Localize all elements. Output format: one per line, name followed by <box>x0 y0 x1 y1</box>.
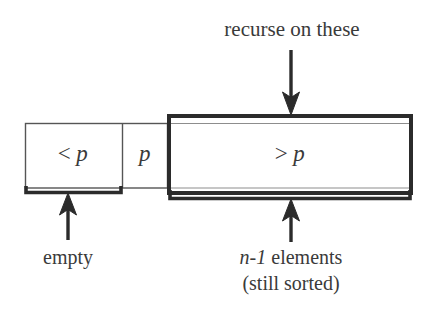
n-minus-one-math: n-1 <box>240 246 267 268</box>
empty-arrow-icon <box>60 193 77 240</box>
recurse-label: recurse on these <box>224 18 359 40</box>
cell-label-pivot: p <box>139 142 151 166</box>
remaining-caption-line2: (still sorted) <box>242 273 339 294</box>
pivot-variable-center: p <box>139 141 151 166</box>
quicksort-partition-diagram: recurse on these <p p >p empty n-1 eleme… <box>0 0 428 323</box>
pivot-variable-left: p <box>76 141 88 166</box>
greater-than-operator: > <box>275 141 293 166</box>
remaining-caption-line1: n-1 elements <box>240 247 343 268</box>
remaining-arrow-icon <box>283 199 300 242</box>
recurse-arrow-icon <box>283 50 300 115</box>
empty-caption-text: empty <box>43 246 93 268</box>
empty-caption: empty <box>43 247 93 268</box>
pivot-variable-right: p <box>293 141 305 166</box>
elements-word: elements <box>266 246 342 268</box>
still-sorted-text: (still sorted) <box>242 272 339 294</box>
cell-label-greater-than-pivot: >p <box>275 142 305 166</box>
less-than-operator: < <box>58 141 76 166</box>
recurse-label-text: recurse on these <box>224 17 359 41</box>
cell-label-less-than-pivot: <p <box>58 142 88 166</box>
